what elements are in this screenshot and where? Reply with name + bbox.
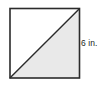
geometry-figure: 6 in. [0,0,102,93]
side-length-label: 6 in. [81,38,98,49]
